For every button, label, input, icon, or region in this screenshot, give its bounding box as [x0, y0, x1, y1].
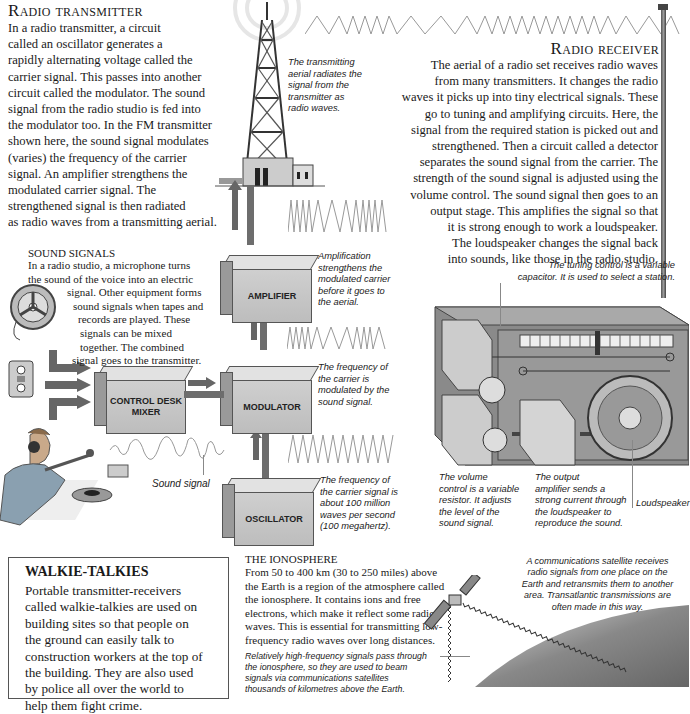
caption-line: about 100 million	[320, 498, 415, 510]
loudspeaker-leader	[632, 440, 633, 508]
modulated-caption: The frequency of the carrier is modulate…	[318, 362, 408, 408]
volume-caption: The volume control is a variable resisto…	[439, 472, 539, 530]
leader-line	[203, 455, 204, 475]
text-line: the building. They are also used	[25, 665, 225, 681]
caption-line: The frequency of	[318, 362, 408, 374]
caption-line: amplifier sends a	[535, 484, 640, 496]
modulator-block: MODULATOR	[220, 366, 312, 436]
text-line: strengthened. Then a circuit called a de…	[330, 138, 658, 154]
caption-line: The volume	[439, 472, 539, 484]
caption-line: modulated carrier	[318, 274, 408, 286]
text-line: from many transmitters. It changes the r…	[330, 73, 658, 89]
text-line: Portable transmitter-receivers	[25, 583, 225, 599]
text-line: The aerial of a radio set receives radio…	[330, 57, 658, 73]
caption-line: before it goes to	[318, 286, 408, 298]
text-line: strength of the sound signal is adjusted…	[330, 170, 658, 186]
receiver-title: Radio receiver	[551, 40, 659, 58]
sound-signals-title: SOUND SIGNALS	[28, 246, 115, 260]
text-line: separates the sound signal from the carr…	[330, 154, 658, 170]
caption-line: control is a variable	[439, 484, 539, 496]
text-line: waves it picks up into tiny electrical s…	[330, 89, 658, 105]
tuning-leader	[500, 283, 501, 328]
modulator-label: MODULATOR	[232, 380, 312, 434]
receiver-body: The aerial of a radio set receives radio…	[330, 57, 658, 268]
ionosphere-title: THE IONOSPHERE	[245, 553, 338, 565]
caption-line: Earth and retransmits them to another	[510, 579, 685, 590]
text-line: building sites so that people on	[25, 616, 225, 632]
oscillator-block: OSCILLATOR	[222, 478, 314, 548]
oscillator-label: OSCILLATOR	[234, 492, 314, 546]
caption-line: (100 megahertz).	[320, 521, 415, 533]
text-line: records are played. These	[28, 313, 228, 327]
caption-line: waves per second	[320, 510, 415, 522]
caption-line: capacitor. It is used to select a statio…	[500, 272, 675, 284]
control-desk-label-line: CONTROL DESK	[110, 396, 182, 407]
caption-line: The output	[535, 472, 640, 484]
caption-line: often made in this way.	[510, 602, 685, 613]
receiver-aerial	[661, 8, 666, 298]
caption-line: area. Transatlantic transmissions are	[510, 590, 685, 601]
caption-line: The tuning control is a variable	[500, 260, 675, 272]
text-line: together. The combined	[28, 341, 228, 355]
caption-line: the carrier is	[318, 374, 408, 386]
amplification-caption: Amplification strengthens the modulated …	[318, 251, 408, 309]
text-line: signal. Other equipment forms	[28, 286, 228, 300]
caption-line: reproduce the sound.	[535, 518, 640, 530]
walkie-talkies-box: WALKIE-TALKIES Portable transmitter-rece…	[8, 557, 229, 699]
text-line: signal goes to the transmitter.	[28, 354, 228, 368]
walkie-talkies-title: WALKIE-TALKIES	[25, 564, 148, 580]
sound-signals-body: In a radio studio, a microphone turns th…	[28, 259, 228, 368]
caption-line: modulated by the	[318, 385, 408, 397]
caption-line: radio signals from one place on the	[510, 567, 685, 578]
text-line: signal from the required station is pick…	[330, 122, 658, 138]
carrier-wave	[288, 433, 398, 467]
text-line: the ground can easily talk to	[25, 632, 225, 648]
carrier-caption: The frequency of the carrier signal is a…	[320, 475, 415, 533]
text-line: signals can be mixed	[28, 327, 228, 341]
loudspeaker-caption: Loudspeaker	[636, 498, 690, 510]
radio-waves-top	[305, 12, 680, 38]
aerial-tip	[658, 4, 668, 10]
text-line: In a radio studio, a microphone turns	[28, 259, 228, 273]
caption-line: resistor. It adjusts	[439, 495, 539, 507]
satellite-caption: A communications satellite receives radi…	[510, 556, 685, 613]
up-arrow-icon	[228, 180, 242, 230]
amplifier-label: AMPLIFIER	[232, 269, 312, 323]
caption-line: the aerial.	[318, 297, 408, 309]
caption-line: strengthens the	[318, 263, 408, 275]
modulated-wave	[287, 323, 397, 353]
right-arrow-icon	[188, 377, 216, 389]
control-desk-label-line: MIXER	[132, 407, 161, 418]
text-line: the sound of the voice into an electric	[28, 273, 228, 287]
text-line: strengthened signal is then radiated	[8, 198, 253, 214]
amplifier-block: AMPLIFIER	[220, 255, 312, 323]
caption-line: strong current through	[535, 495, 640, 507]
caption-line: A communications satellite receives	[510, 556, 685, 567]
radio-receiver-illustration	[420, 285, 689, 467]
text-line: as radio waves from a transmitting aeria…	[8, 214, 253, 230]
caption-line: Amplification	[318, 251, 408, 263]
transmitter-title: Radio transmitter	[8, 2, 143, 20]
amplified-wave	[288, 198, 398, 236]
text-line: by police all over the world to	[25, 681, 225, 697]
sound-signal-caption: Sound signal	[152, 478, 210, 490]
text-line: called walkie-talkies are used on	[25, 599, 225, 615]
sound-signal-wave	[108, 430, 228, 470]
text-line: The loudspeaker changes the signal back	[330, 235, 658, 251]
amplifier-to-aerial-link	[247, 185, 254, 245]
text-line: go to tuning and amplifying circuits. He…	[330, 106, 658, 122]
caption-line: the level of the	[439, 507, 539, 519]
text-line: construction workers at the top of	[25, 649, 225, 665]
caption-line: the loudspeaker to	[535, 507, 640, 519]
text-line: sound signals when tapes and	[28, 300, 228, 314]
mixer-to-modulator-link	[184, 391, 224, 398]
walkie-talkies-body: Portable transmitter-receivers called wa…	[25, 583, 225, 714]
tuning-caption: The tuning control is a variable capacit…	[500, 260, 675, 283]
caption-line: The frequency of	[320, 475, 415, 487]
caption-line: sound signal.	[318, 397, 408, 409]
text-line: help them fight crime.	[25, 698, 225, 714]
output-amplifier-caption: The output amplifier sends a strong curr…	[535, 472, 640, 530]
caption-line: sound signal.	[439, 518, 539, 530]
caption-line: the carrier signal is	[320, 487, 415, 499]
